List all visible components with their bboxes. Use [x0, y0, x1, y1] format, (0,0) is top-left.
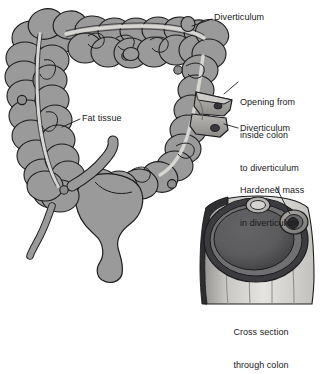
label-cross-section-line-1: Cross section	[205, 327, 317, 338]
label-diverticulum-top: Diverticulum	[214, 12, 264, 23]
label-hardened-line-2: in diverticulum	[240, 218, 304, 229]
diverticulum-cavity	[211, 125, 220, 132]
appendix	[30, 206, 52, 256]
cutaway-window	[190, 92, 232, 137]
rectum	[76, 174, 143, 283]
label-hardened-line-1: Hardened mass	[240, 185, 304, 196]
colon-body	[5, 4, 233, 282]
label-cross-section-line-2: through colon	[205, 360, 317, 371]
leader-opening	[224, 82, 238, 94]
label-cross-section: Cross section through colon	[205, 305, 317, 374]
label-fat-tissue: Fat tissue	[82, 113, 122, 124]
label-hardened-mass: Hardened mass in diverticulum	[240, 163, 304, 251]
label-opening-line-1: Opening from	[240, 97, 299, 108]
label-diverticulum-right: Diverticulum	[240, 123, 290, 134]
opening-hole	[214, 103, 222, 109]
